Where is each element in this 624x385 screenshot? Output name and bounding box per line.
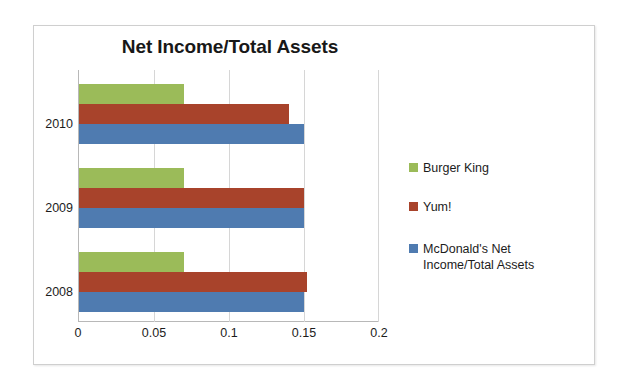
legend-item-burger-king[interactable]: Burger King (409, 160, 489, 176)
plot-area (78, 70, 379, 322)
legend-label-yum: Yum! (423, 199, 452, 215)
legend-swatch-burger-king (409, 163, 418, 172)
legend-item-mcdonalds[interactable]: McDonald's Net Income/Total Assets (409, 241, 581, 273)
y-axis-label-2010: 2010 (35, 117, 73, 131)
bar-yum-2010[interactable] (79, 104, 289, 124)
bar-burger-king-2009[interactable] (79, 168, 184, 188)
legend-label-burger-king: Burger King (423, 160, 489, 176)
y-axis-label-2008: 2008 (35, 285, 73, 299)
bar-yum-2008[interactable] (79, 272, 307, 292)
legend-label-mcdonalds: McDonald's Net Income/Total Assets (423, 241, 581, 273)
bar-yum-2009[interactable] (79, 188, 304, 208)
x-tick-0.15: 0.15 (282, 326, 326, 340)
chart-title: Net Income/Total Assets (60, 36, 400, 58)
x-tick-0.1: 0.1 (207, 326, 251, 340)
bar-burger-king-2008[interactable] (79, 252, 184, 272)
y-axis-label-2009: 2009 (35, 201, 73, 215)
x-tick-0.05: 0.05 (132, 326, 176, 340)
bar-mcdonalds-2009[interactable] (79, 208, 304, 228)
x-tick-0.2: 0.2 (357, 326, 401, 340)
bar-burger-king-2010[interactable] (79, 84, 184, 104)
legend-swatch-mcdonalds (409, 244, 418, 253)
bar-mcdonalds-2010[interactable] (79, 124, 304, 144)
legend-item-yum[interactable]: Yum! (409, 199, 452, 215)
x-tick-0: 0 (56, 326, 100, 340)
gridline-0.2 (378, 70, 379, 322)
bar-mcdonalds-2008[interactable] (79, 292, 304, 312)
legend-swatch-yum (409, 202, 418, 211)
